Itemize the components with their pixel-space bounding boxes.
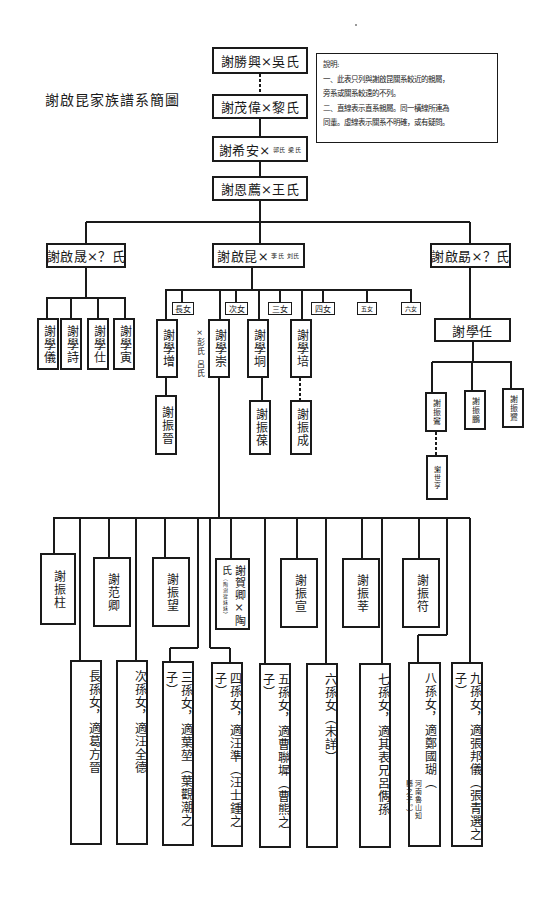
node-xue-chong[interactable]: 謝學崇 bbox=[208, 319, 230, 378]
node-xue-tong[interactable]: 謝學垌 bbox=[247, 319, 269, 378]
node-name: 謝振宣 bbox=[292, 574, 306, 613]
granddaughter-6[interactable]: 六孫女（未詳） bbox=[306, 663, 338, 848]
granddaughter-1[interactable]: 長孫女，適葛方晉 bbox=[70, 660, 102, 845]
daughter-text: 六女 bbox=[405, 304, 417, 313]
scan-speck bbox=[355, 24, 357, 26]
node-name: 謝學儀 bbox=[41, 325, 55, 364]
node-text: 九孫女，適張邦儀（張青選之子） bbox=[452, 672, 481, 845]
ancestor-name: 謝茂偉×黎氏 bbox=[221, 97, 300, 116]
node-name: 謝啟昆× bbox=[217, 246, 269, 265]
node-name: 謝范卿 bbox=[105, 573, 119, 612]
node-name: 謝學培 bbox=[294, 329, 308, 368]
node-text: 四孫女，適汪準（汪士鍾之子） bbox=[212, 672, 241, 845]
node-zhen-jin[interactable]: 謝振晉 bbox=[155, 395, 177, 455]
node-name: 謝振鷺 bbox=[508, 395, 518, 422]
node-name: 謝學增 bbox=[160, 329, 174, 368]
notes-line-3: 二、直線表示直系親屬。同一橫線所連為 bbox=[323, 102, 491, 117]
node-text: 長孫女，適葛方晉 bbox=[86, 670, 100, 774]
node-qi-xu[interactable]: 謝啟勗×？氏 bbox=[430, 243, 511, 268]
node-zhen-cheng[interactable]: 謝振成 bbox=[290, 400, 312, 455]
legend-notes: 說明: 一、此表只列與謝啟昆關系較近的親屬， 旁系或關系較遠的不列。 二、直線表… bbox=[316, 53, 498, 143]
ancestor-node-1[interactable]: 謝勝興×吳氏 bbox=[212, 47, 308, 74]
node-zhen-zhu[interactable]: 謝振柱 bbox=[40, 553, 76, 625]
granddaughter-8[interactable]: 八孫女，適鄭國瑚（ 河南魯山知 縣之子。） bbox=[408, 662, 441, 847]
notes-heading: 說明: bbox=[323, 58, 491, 73]
node-he-qing[interactable]: 謝賀卿×陶 氏（陶澍從妹妹） bbox=[215, 558, 250, 630]
node-name: 謝振成 bbox=[294, 408, 308, 447]
node-name: 謝學詩 bbox=[64, 325, 78, 364]
ancestor-spouses: 郭氏 梁氏 bbox=[273, 145, 301, 154]
notes-line-1: 一、此表只列與謝啟昆關系較近的親屬， bbox=[323, 73, 491, 88]
daughter-label-3[interactable]: 三女 bbox=[268, 302, 292, 315]
node-text: 五孫女，適曹聯墀（曹熊之子） bbox=[260, 673, 289, 846]
spouse-note: （陶澍從妹妹） bbox=[222, 576, 228, 618]
spouse-side-char: 氏 bbox=[220, 565, 231, 576]
node-name: 謝學寅 bbox=[117, 325, 131, 364]
granddaughter-4[interactable]: 四孫女，適汪準（汪士鍾之子） bbox=[211, 662, 243, 847]
daughter-label-4[interactable]: 四女 bbox=[311, 302, 335, 315]
xue-chong-spouse-note: ×彭氏 呂氏 bbox=[194, 328, 205, 378]
node-text: 七孫女，適其表兄呂儁孫 bbox=[375, 673, 389, 816]
ancestor-name: 謝希安× bbox=[219, 140, 271, 159]
node-note-2: 縣之子。） bbox=[405, 780, 413, 817]
node-name: 謝學任 bbox=[452, 321, 493, 340]
daughter-label-2[interactable]: 次女 bbox=[225, 302, 248, 315]
granddaughter-3[interactable]: 三孫女，適葉堃（葉觀潮之子） bbox=[162, 661, 194, 846]
node-xue-zeng[interactable]: 謝學增 bbox=[156, 319, 178, 378]
notes-line-2: 旁系或關系較遠的不列。 bbox=[323, 87, 491, 102]
node-fan-qing[interactable]: 謝范卿 bbox=[93, 557, 131, 627]
ancestor-name: 謝恩薦×王氏 bbox=[221, 179, 300, 198]
chart-title: 謝啟昆家族譜系簡圖 bbox=[45, 89, 180, 109]
node-name: 謝賀卿×陶 bbox=[232, 565, 245, 627]
ancestor-node-4[interactable]: 謝恩薦×王氏 bbox=[212, 176, 308, 201]
node-xue-pei[interactable]: 謝學培 bbox=[290, 319, 312, 378]
node-text: 六孫女（未詳） bbox=[322, 673, 336, 764]
node-qi-kun[interactable]: 謝啟昆×李氏 刘氏 bbox=[212, 243, 305, 268]
granddaughter-7[interactable]: 七孫女，適其表兄呂儁孫 bbox=[359, 663, 391, 848]
node-name: 謝學垌 bbox=[251, 329, 265, 368]
daughter-label-1[interactable]: 長女 bbox=[172, 302, 194, 315]
node-left-son-1[interactable]: 謝學儀 bbox=[37, 318, 59, 370]
node-name: 謝學崇 bbox=[212, 329, 226, 368]
node-name: 謝振鸞 bbox=[431, 399, 441, 426]
notes-line-4: 同輩。虛線表示關系不明確，或有疑問。 bbox=[323, 116, 491, 131]
daughter-text: 四女 bbox=[315, 303, 331, 314]
node-xue-ren[interactable]: 謝學任 bbox=[434, 318, 511, 342]
node-left-son-2[interactable]: 謝學詩 bbox=[60, 318, 82, 370]
node-name: 謝振望 bbox=[164, 573, 178, 612]
granddaughter-5[interactable]: 五孫女，適曹聯墀（曹熊之子） bbox=[259, 663, 291, 848]
node-spouses: 李氏 刘氏 bbox=[271, 251, 299, 260]
daughter-text: 長女 bbox=[175, 303, 191, 314]
node-left-son-4[interactable]: 謝學寅 bbox=[113, 318, 135, 370]
node-left-son-3[interactable]: 謝學仕 bbox=[87, 318, 109, 370]
granddaughter-9[interactable]: 九孫女，適張邦儀（張青選之子） bbox=[451, 662, 483, 847]
node-zhen-bao[interactable]: 謝振葆 bbox=[249, 400, 271, 455]
node-name: 謝啟晟×？氏 bbox=[47, 246, 126, 265]
node-zhen-xin[interactable]: 謝振莘 bbox=[342, 558, 380, 628]
node-name: 謝振晉 bbox=[159, 406, 173, 445]
ancestor-node-2[interactable]: 謝茂偉×黎氏 bbox=[212, 94, 308, 119]
node-name: 謝振柱 bbox=[51, 570, 65, 609]
node-zhen-peng[interactable]: 謝振鵬 bbox=[464, 390, 486, 430]
node-text: 次孫女，適汪全德 bbox=[132, 670, 146, 774]
node-zhen-xuan[interactable]: 謝振宣 bbox=[280, 558, 318, 628]
daughter-label-5[interactable]: 五女 bbox=[357, 302, 377, 315]
node-zhen-luan[interactable]: 謝振鸞 bbox=[425, 392, 447, 432]
node-name: 謝世亨 bbox=[433, 466, 441, 490]
node-name: 謝振鵬 bbox=[470, 397, 480, 424]
daughter-label-6[interactable]: 六女 bbox=[401, 302, 421, 315]
node-spouse-surname: 氏（陶澍從妹妹） bbox=[219, 565, 231, 618]
node-shi-heng[interactable]: 謝世亨 bbox=[426, 455, 448, 500]
ancestor-name: 謝勝興×吳氏 bbox=[221, 51, 300, 70]
granddaughter-2[interactable]: 次孫女，適汪全德 bbox=[116, 660, 148, 845]
node-zhen-fu[interactable]: 謝振符 bbox=[402, 558, 440, 628]
node-zhen-lu[interactable]: 謝振鷺 bbox=[502, 388, 524, 428]
node-zhen-wang[interactable]: 謝振望 bbox=[152, 557, 190, 627]
node-name: 謝學仕 bbox=[91, 325, 105, 364]
node-text: 三孫女，適葉堃（葉觀潮之子） bbox=[163, 671, 192, 844]
daughter-text: 次女 bbox=[229, 303, 245, 314]
node-qi-sheng[interactable]: 謝啟晟×？氏 bbox=[46, 243, 126, 268]
ancestor-node-3[interactable]: 謝希安×郭氏 梁氏 bbox=[212, 136, 308, 162]
node-name: 謝啟勗×？氏 bbox=[431, 246, 510, 265]
node-name: 謝振莘 bbox=[354, 574, 368, 613]
